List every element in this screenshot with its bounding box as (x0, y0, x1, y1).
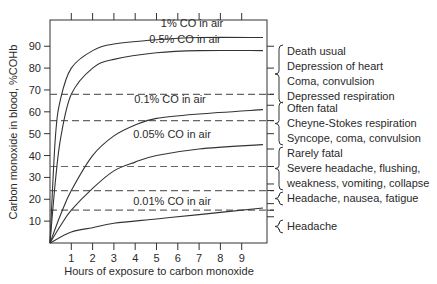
y-tick-label: 80 (29, 62, 41, 74)
x-tick-label: 6 (175, 252, 181, 264)
y-tick-label: 50 (29, 128, 41, 140)
x-tick-label: 7 (196, 252, 202, 264)
symptom-text: Severe headache, flushing, (287, 162, 420, 174)
brace-icon (275, 45, 283, 103)
brace-icon (275, 102, 283, 145)
x-tick-label: 9 (239, 252, 245, 264)
brace-icon (275, 147, 283, 190)
curve-label: 0.5% CO in air (149, 33, 221, 45)
symptom-text: Rarely fatal (287, 147, 343, 159)
x-tick-label: 1 (68, 252, 74, 264)
curves (50, 37, 263, 243)
y-tick-label: 10 (29, 215, 41, 227)
y-tick-label: 70 (29, 84, 41, 96)
x-tick-label: 3 (111, 252, 117, 264)
curve-label: 0.1% CO in air (134, 93, 206, 105)
symptom-text: Depression of heart (287, 60, 383, 72)
y-tick-label: 20 (29, 193, 41, 205)
y-tick-label: 90 (29, 40, 41, 52)
symptom-text: weakness, vomiting, collapse (286, 177, 429, 189)
x-tick-label: 2 (90, 252, 96, 264)
curve-label: 0.01% CO in air (133, 195, 211, 207)
curve (50, 145, 263, 243)
y-tick-label: 30 (29, 171, 41, 183)
symptom-text: Death usual (287, 45, 346, 57)
y-tick-label: 60 (29, 106, 41, 118)
symptom-text: Syncope, coma, convulsion (287, 132, 421, 144)
y-axis-label: Carbon monoxide in blood, %COHb (7, 45, 19, 220)
brace-icon (275, 192, 283, 205)
x-tick-label: 8 (217, 252, 223, 264)
symptom-text: Often fatal (287, 102, 338, 114)
co-exposure-chart: 1% CO in air0.5% CO in air0.1% CO in air… (0, 0, 437, 284)
x-tick-label: 4 (132, 252, 138, 264)
x-axis-label: Hours of exposure to carbon monoxide (64, 265, 254, 277)
x-tick-label: 5 (153, 252, 159, 264)
y-tick-label: 40 (29, 150, 41, 162)
curve (50, 37, 263, 243)
symptom-text: Headache (287, 220, 337, 232)
threshold-lines (50, 94, 274, 210)
symptom-text: Headache, nausea, fatigue (287, 192, 419, 204)
brace-icon (275, 220, 283, 233)
symptom-text: Depressed respiration (287, 90, 395, 102)
curve (50, 208, 263, 243)
symptom-text: Coma, convulsion (287, 75, 374, 87)
curve-label: 0.05% CO in air (133, 128, 211, 140)
curve-label: 1% CO in air (161, 17, 224, 29)
symptom-annotations: Death usualDepression of heartComa, conv… (275, 45, 429, 233)
curve-labels: 1% CO in air0.5% CO in air0.1% CO in air… (133, 17, 223, 207)
symptom-text: Cheyne-Stokes respiration (287, 117, 417, 129)
